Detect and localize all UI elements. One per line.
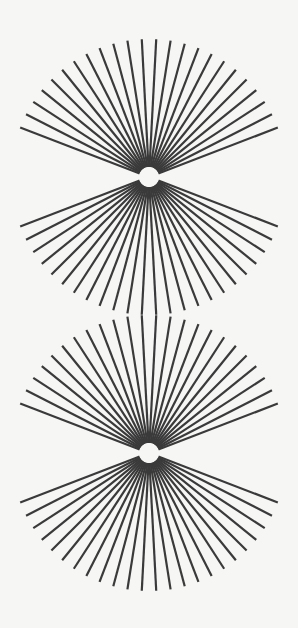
lower-fan <box>20 181 278 315</box>
radial-fan-illustration <box>0 0 298 628</box>
illusion-canvas <box>0 0 298 628</box>
upper-fan <box>20 315 278 449</box>
lower-fan <box>20 457 278 591</box>
fan-figure-top <box>20 39 278 315</box>
center-circle <box>139 167 159 187</box>
fan-figure-bottom <box>20 315 278 591</box>
upper-fan <box>20 39 278 173</box>
center-circle <box>139 443 159 463</box>
